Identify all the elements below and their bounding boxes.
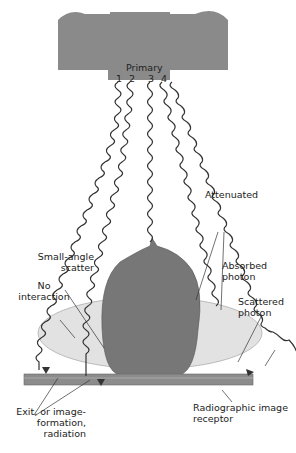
photon-number-3: 3: [148, 73, 154, 84]
patient-head: [102, 238, 200, 375]
arrowhead-icon: [42, 367, 50, 374]
label-exit-radiation: Exit, or image- formation, radiation: [12, 406, 86, 439]
image-receptor: [24, 374, 253, 385]
label-absorbed-photon: Absorbed photon: [222, 260, 267, 282]
tube-label: Primary: [126, 62, 163, 73]
label-image-receptor: Radiographic image receptor: [193, 402, 288, 424]
label-attenuated: Attenuated: [205, 189, 258, 200]
label-small-angle-scatter: Small-angle scatter: [22, 251, 94, 273]
label-no-interaction: No interaction: [14, 280, 74, 302]
photon-number-1: 1: [116, 73, 122, 84]
photon-number-2: 2: [129, 73, 135, 84]
label-scattered-photon: Scattered photon: [238, 296, 284, 318]
photon-number-4: 4: [161, 73, 167, 84]
